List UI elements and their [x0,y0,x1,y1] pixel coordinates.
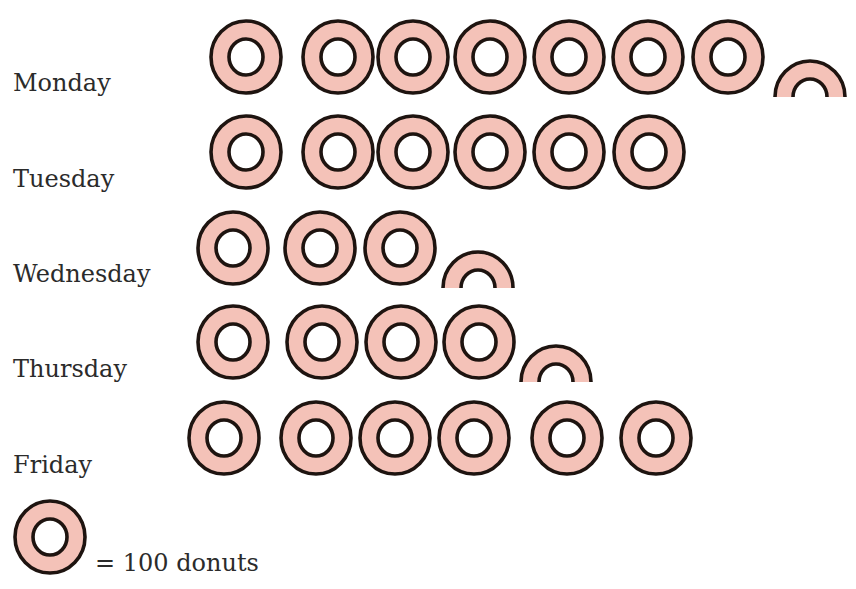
donut-icon [285,212,355,284]
donut-icon [613,21,683,93]
donut-icon [455,21,525,93]
legend-donut-icon [15,501,85,573]
legend-text: = 100 donuts [95,549,259,577]
half-donut-icon [775,61,845,133]
pictograph-row-tuesday [211,116,684,188]
donut-icon [365,212,435,284]
donut-icon [534,21,604,93]
donut-icon [693,21,763,93]
donut-icon [439,402,509,474]
donut-icon [198,306,268,378]
donut-icon [198,212,268,284]
donut-icon [360,402,430,474]
donut-icon [281,402,351,474]
donut-icon [189,402,259,474]
donut-icon [455,116,525,188]
donut-icon [378,116,448,188]
pictograph-chart [0,0,856,589]
donut-icon [211,116,281,188]
pictograph-row-monday [211,21,845,133]
donut-icon [366,306,436,378]
donut-icon [534,116,604,188]
donut-icon [211,21,281,93]
pictograph-row-friday [189,402,691,474]
donut-icon [614,116,684,188]
donut-icon [378,21,448,93]
donut-icon [444,306,514,378]
donut-icon [303,21,373,93]
donut-icon [621,402,691,474]
donut-icon [303,116,373,188]
donut-icon [287,306,357,378]
donut-icon [532,402,602,474]
